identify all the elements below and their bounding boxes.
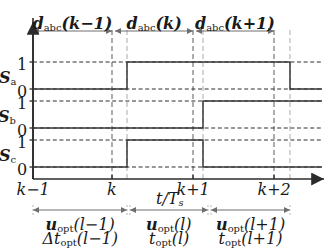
signal-trace-a	[33, 62, 322, 89]
bottom-t-label-2: topt(l+1)	[219, 231, 283, 248]
signal-level-high-b: 1	[17, 96, 27, 112]
signal-level-low-c: 0	[17, 162, 27, 178]
timing-diagram-figure: dabc(k−1)dabc(k)dabc(k+1)k−1kk+1k+2t/Ts1…	[0, 0, 331, 248]
x-tick-label-0: k−1	[17, 182, 50, 198]
signal-name-b: Sb	[0, 109, 16, 126]
signal-trace-c	[33, 140, 322, 167]
signal-level-high-c: 1	[17, 135, 27, 151]
signal-name-a: Sa	[0, 70, 16, 87]
bottom-t-label-1: topt(l)	[149, 231, 189, 248]
signal-trace-b	[33, 101, 322, 128]
bottom-t-label-0: Δtopt(l−1)	[43, 231, 118, 248]
top-interval-label-1: dabc(k)	[127, 16, 182, 33]
x-axis-label: t/Ts	[156, 191, 184, 208]
diagram-canvas	[0, 0, 331, 248]
top-interval-label-0: dabc(k−1)	[33, 16, 113, 33]
top-interval-label-2: dabc(k+1)	[195, 16, 275, 33]
x-tick-label-3: k+2	[258, 182, 291, 198]
x-tick-label-1: k	[107, 182, 117, 198]
signal-name-c: Sc	[0, 148, 16, 165]
signal-level-high-a: 1	[17, 57, 27, 73]
